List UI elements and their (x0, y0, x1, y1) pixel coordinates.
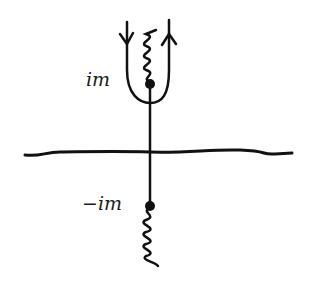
real-axis (25, 150, 292, 156)
upper-branch-cut (144, 30, 156, 82)
upper-point-text: im (86, 68, 110, 90)
label-upper-point: im (86, 68, 110, 90)
upper-branch-point (145, 79, 155, 89)
diagram-svg (0, 0, 319, 288)
lower-point-text: −im (82, 192, 122, 214)
label-lower-point: −im (82, 192, 122, 214)
lower-branch-cut (143, 208, 158, 266)
diagram-canvas: im −im (0, 0, 319, 288)
